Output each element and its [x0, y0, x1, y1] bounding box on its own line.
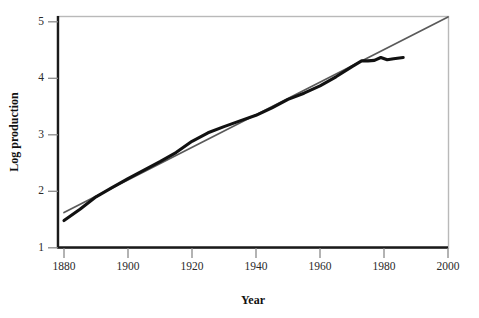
ytick-label-1: 1: [38, 242, 44, 254]
x-axis-title: Year: [241, 294, 265, 306]
xtick-label-1880: 1880: [53, 261, 76, 273]
xtick-label-1940: 1940: [245, 261, 268, 273]
ytick-label-4: 4: [38, 73, 44, 85]
y-tick-marks: [48, 22, 58, 248]
ytick-label-5: 5: [38, 16, 44, 28]
xtick-label-1960: 1960: [309, 261, 332, 273]
xtick-label-1900: 1900: [117, 261, 140, 273]
xtick-label-1980: 1980: [373, 261, 396, 273]
chart-figure: 5 4 3 2 1 1880 1900 1920 1940 1960 1980 …: [0, 0, 479, 318]
ytick-label-2: 2: [38, 186, 44, 198]
ytick-label-3: 3: [38, 129, 44, 141]
xtick-label-1920: 1920: [181, 261, 204, 273]
xtick-label-2000: 2000: [437, 261, 460, 273]
x-tick-marks: [64, 248, 448, 258]
plot-frame: [58, 17, 449, 249]
y-axis-title: Log production: [8, 92, 20, 171]
